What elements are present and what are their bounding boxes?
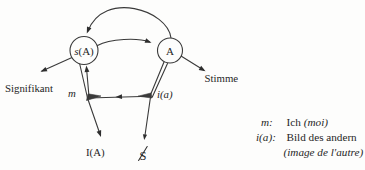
label-stimme: Stimme <box>205 72 239 84</box>
arrowhead-signifikant-icon <box>40 67 48 74</box>
arrowhead-into-a-left-icon <box>145 38 153 45</box>
edge-sa-to-signifikant <box>42 58 72 72</box>
barred-s-letter: S <box>140 149 147 163</box>
legend-symbol-m: m: <box>261 116 273 128</box>
label-i-a: i(a) <box>157 88 173 101</box>
legend-text-ia-continuation: (image de l'autre) <box>284 146 364 159</box>
junction-wedge-m <box>87 94 102 101</box>
legend-symbol-ia: i(a): <box>256 131 276 144</box>
node-a-label: A <box>166 45 174 57</box>
edge-m-to-sa-strand-arrowed <box>87 69 89 97</box>
barred-s-symbol: S <box>139 147 148 163</box>
arrowhead-into-sa-bottom-icon <box>84 65 89 72</box>
diagram-canvas: s(A) A Signifikant Stimme m i(a) I(A) S … <box>0 0 365 170</box>
arrowhead-barred-s-icon <box>142 134 147 140</box>
node-sa-label: s(A) <box>74 45 94 58</box>
arrowhead-ia-label-icon <box>97 130 104 138</box>
edge-ia-to-barred-s <box>145 97 151 136</box>
edge-m-to-ia-label <box>88 100 100 134</box>
legend-text-m: Ich(moi) <box>287 116 329 129</box>
junction-wedge-ia <box>138 93 152 98</box>
lacan-graph-figure: s(A) A Signifikant Stimme m i(a) I(A) S … <box>0 0 365 170</box>
arrowhead-mid-horizontal-icon <box>115 94 122 99</box>
edge-big-arc-a-to-sa <box>88 8 171 38</box>
label-capital-i-a: I(A) <box>86 146 105 159</box>
arrowhead-into-sa-top-icon <box>85 27 92 35</box>
legend: m: Ich(moi) i(a): Bild des andern (image… <box>256 116 363 159</box>
label-signifikant: Signifikant <box>5 82 53 94</box>
edge-shallow-arc-sa-to-a <box>98 39 150 45</box>
label-m: m <box>68 87 76 99</box>
legend-text-ia: Bild des andern <box>287 131 358 143</box>
